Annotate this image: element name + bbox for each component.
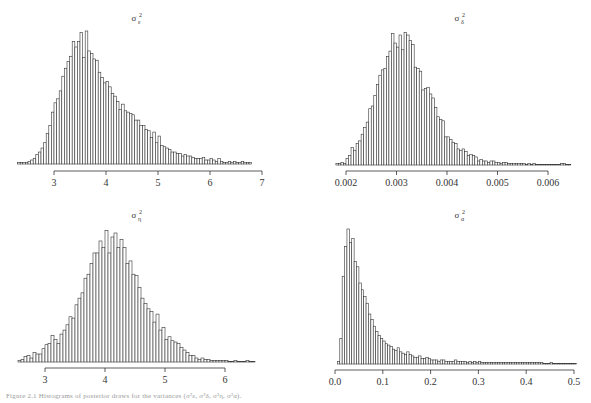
histogram-bar	[381, 70, 384, 165]
histogram-bar	[431, 360, 433, 364]
histogram-bar	[336, 164, 339, 165]
histogram-bar	[189, 355, 192, 362]
histogram-bar	[96, 253, 99, 362]
histogram-bar	[223, 163, 226, 164]
histogram-bar	[153, 132, 156, 164]
histogram-bar	[202, 157, 205, 164]
svg-text:2: 2	[139, 209, 142, 215]
histogram-bar	[216, 361, 219, 362]
histogram-bar	[574, 363, 576, 364]
histogram-bar	[354, 150, 357, 165]
histogram-bar	[204, 359, 207, 362]
histogram-bar	[135, 120, 138, 164]
histogram-bar	[371, 319, 373, 364]
histogram-bar	[109, 87, 112, 164]
histogram-bar	[120, 240, 123, 362]
histogram-bar	[462, 361, 464, 364]
histogram-bar	[90, 264, 93, 362]
histogram-bar	[64, 68, 67, 164]
histogram-bar	[244, 163, 247, 164]
histogram-bar	[507, 363, 509, 364]
histogram-bar	[509, 363, 511, 364]
x-axis: 0.0020.0030.0040.0050.006	[335, 171, 560, 188]
histogram-bar	[361, 134, 364, 165]
histogram-bar	[455, 360, 457, 364]
histogram-bar	[485, 161, 488, 165]
histogram-bar	[366, 303, 368, 364]
histogram-bar	[374, 95, 377, 165]
svg-text:η: η	[138, 216, 141, 222]
histogram-bar	[49, 125, 52, 164]
histogram-bar	[153, 322, 156, 362]
histogram-bar	[433, 360, 435, 364]
histogram-bar	[553, 164, 556, 165]
histogram-bar	[510, 164, 513, 165]
histogram-bar	[500, 363, 502, 364]
histogram-bar	[77, 42, 80, 164]
histogram-bar	[533, 164, 536, 165]
histogram-bar	[237, 361, 240, 362]
histogram-bar	[490, 161, 493, 165]
histogram-bar	[222, 361, 225, 362]
histogram-bar	[493, 363, 495, 364]
histogram-bar	[27, 355, 30, 362]
histogram-bar	[228, 361, 231, 362]
histogram-bar	[114, 96, 117, 164]
histogram-bar	[452, 361, 454, 364]
histogram-bar	[531, 363, 533, 364]
histogram-bar	[563, 164, 566, 165]
histogram-bar	[200, 159, 203, 164]
histogram-bar	[395, 351, 397, 365]
histogram-bar	[205, 160, 208, 164]
histogram-bar	[162, 327, 165, 362]
histogram-bar	[450, 361, 452, 364]
histogram-bar	[568, 164, 571, 165]
histogram-bar	[201, 358, 204, 362]
histogram-bar	[373, 326, 375, 364]
histogram-bar	[183, 350, 186, 362]
histogram-bar	[521, 363, 523, 364]
histogram-bar	[442, 121, 445, 165]
x-tick-label: 3	[52, 177, 57, 188]
histogram-bar	[368, 314, 370, 364]
histogram-bar	[145, 129, 148, 164]
histogram-bar	[171, 152, 174, 164]
x-axis: 3456	[43, 368, 228, 385]
histogram-bar	[101, 78, 104, 164]
histogram-bar	[428, 359, 430, 364]
histogram-bar	[444, 137, 447, 165]
histogram-bar	[572, 363, 574, 364]
panel-title: σ2ε	[132, 12, 142, 25]
histogram-bar	[417, 69, 420, 165]
histogram-bar	[129, 261, 132, 362]
histogram-bar	[114, 233, 117, 362]
histogram-bar	[75, 47, 78, 164]
histogram-bar	[218, 159, 221, 164]
histogram-bar	[359, 283, 361, 364]
histogram-bar	[426, 357, 428, 364]
histogram-bar	[195, 358, 198, 362]
histogram-bar	[434, 107, 437, 165]
histogram-bar	[93, 59, 96, 164]
histogram-bar	[122, 104, 125, 164]
histogram-bar	[106, 82, 109, 164]
histogram-bar	[457, 149, 460, 165]
histogram-bar	[518, 164, 521, 165]
histogram-bar	[150, 137, 153, 164]
histogram-bar	[249, 163, 252, 164]
histogram-bar	[207, 359, 210, 362]
histogram-bars	[18, 31, 252, 164]
histogram-bar	[67, 62, 70, 164]
svg-text:σ: σ	[455, 210, 460, 220]
histogram-bar	[490, 363, 492, 364]
histogram-bar	[495, 162, 498, 165]
histogram-bar	[78, 298, 81, 362]
histogram-bar	[20, 163, 23, 164]
histogram-bar	[147, 309, 150, 362]
histogram-bar	[543, 164, 546, 165]
histogram-bar	[57, 343, 60, 362]
histogram-bar	[515, 164, 518, 165]
histogram-bar	[505, 162, 508, 165]
histogram-bar	[541, 363, 543, 364]
histogram-bar	[447, 137, 450, 165]
